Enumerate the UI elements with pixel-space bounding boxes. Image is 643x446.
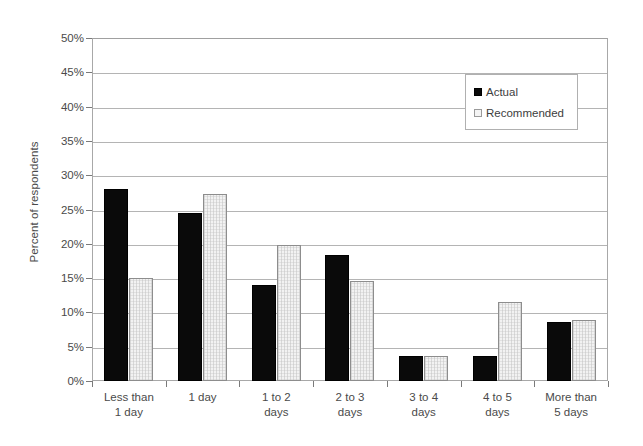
x-tick-mark — [92, 381, 93, 387]
bar-actual[interactable] — [325, 255, 349, 381]
bar-group — [92, 38, 166, 381]
y-tick-label: 30% — [40, 169, 84, 181]
legend-label-recommended: Recommended — [486, 107, 564, 119]
bar-actual[interactable] — [252, 285, 276, 381]
bar-recommended[interactable] — [498, 302, 522, 381]
bar-actual[interactable] — [473, 356, 497, 381]
legend-item-recommended[interactable]: Recommended — [474, 102, 577, 123]
y-tick-label: 15% — [40, 272, 84, 284]
bar-recommended[interactable] — [203, 194, 227, 381]
y-tick-label: 25% — [40, 204, 84, 216]
legend-swatch-recommended-icon — [474, 109, 482, 117]
bar-actual[interactable] — [178, 213, 202, 381]
x-category-label-line: 1 day — [82, 405, 176, 420]
legend-swatch-actual-icon — [474, 88, 482, 96]
y-tick-label: 35% — [40, 135, 84, 147]
bar-recommended[interactable] — [572, 320, 596, 381]
y-tick-label: 40% — [40, 101, 84, 113]
x-category-label-line: More than — [524, 390, 618, 405]
bar-recommended[interactable] — [350, 281, 374, 381]
y-tick-label: 0% — [40, 375, 84, 387]
y-tick-label: 50% — [40, 32, 84, 44]
x-category-label: More than5 days — [524, 390, 618, 420]
x-tick-mark — [608, 381, 609, 387]
bar-actual[interactable] — [399, 356, 423, 381]
legend-label-actual: Actual — [486, 86, 518, 98]
x-tick-mark — [534, 381, 535, 387]
bar-group — [313, 38, 387, 381]
y-tick-label: 10% — [40, 306, 84, 318]
y-tick-label: 5% — [40, 341, 84, 353]
bar-chart: Percent of respondents 0%5%10%15%20%25%3… — [0, 0, 643, 446]
x-category-label-line: 5 days — [524, 405, 618, 420]
bar-actual[interactable] — [547, 322, 571, 381]
x-tick-mark — [461, 381, 462, 387]
bar-recommended[interactable] — [129, 278, 153, 381]
bar-actual[interactable] — [104, 189, 128, 381]
y-tick-label: 20% — [40, 238, 84, 250]
y-tick-label: 45% — [40, 66, 84, 78]
x-tick-mark — [313, 381, 314, 387]
bar-group — [387, 38, 461, 381]
bar-recommended[interactable] — [424, 356, 448, 381]
bar-group — [239, 38, 313, 381]
x-tick-mark — [387, 381, 388, 387]
bar-recommended[interactable] — [277, 245, 301, 382]
x-tick-mark — [239, 381, 240, 387]
chart-legend: Actual Recommended — [465, 74, 578, 130]
y-axis-title: Percent of respondents — [28, 102, 40, 302]
legend-item-actual[interactable]: Actual — [474, 81, 577, 102]
bar-group — [166, 38, 240, 381]
x-tick-mark — [166, 381, 167, 387]
